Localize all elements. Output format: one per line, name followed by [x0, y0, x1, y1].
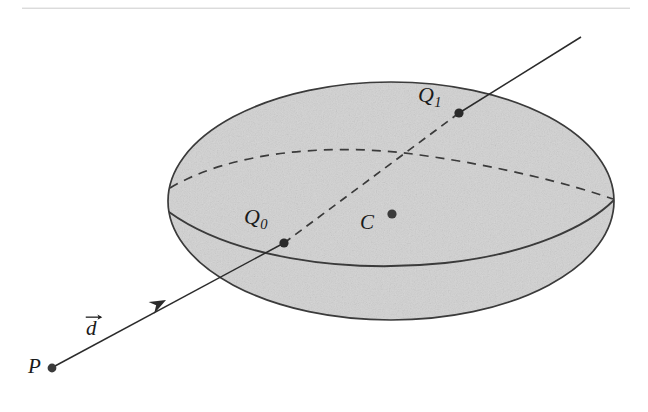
shaded-ellipsoid [168, 82, 614, 320]
point-C-dot [387, 209, 396, 218]
label-Q1-base: Q [418, 82, 434, 107]
label-P-text: P [28, 354, 41, 378]
ray-segment-entry [55, 243, 284, 366]
label-C-text: C [360, 210, 374, 234]
label-point-P: P [28, 356, 41, 377]
figure-root: P d Q0 Q1 C [0, 0, 648, 412]
label-Q0-subscript: 0 [260, 216, 267, 232]
label-Q1-subscript: 1 [434, 94, 441, 110]
point-Q0-dot [279, 238, 288, 247]
vector-arrow-icon [85, 312, 103, 321]
label-point-Q0: Q0 [244, 206, 267, 231]
ray-ellipsoid-figure [0, 0, 648, 412]
point-Q1-dot [454, 108, 463, 117]
point-P-dot [48, 364, 57, 373]
top-horizontal-rule [22, 7, 630, 9]
label-point-C: C [360, 212, 374, 233]
label-Q0-base: Q [244, 204, 260, 229]
label-direction-vector-d: d [86, 318, 97, 339]
ray-segment-exit [459, 37, 581, 113]
vector-d-wrap: d [86, 318, 97, 339]
label-point-Q1: Q1 [418, 84, 441, 109]
